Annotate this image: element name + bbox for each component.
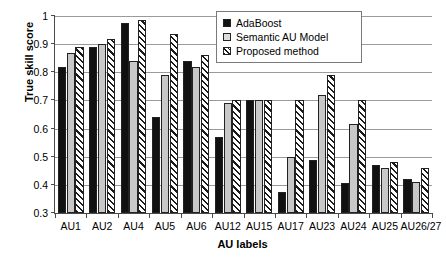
x-axis-tick-label: AU24 bbox=[338, 220, 369, 232]
y-axis-tick-label: 0.5 bbox=[0, 152, 55, 162]
bar bbox=[224, 103, 232, 213]
bar bbox=[152, 117, 160, 213]
bar-group: AU4 bbox=[118, 16, 149, 213]
bar bbox=[309, 160, 317, 213]
bar bbox=[75, 47, 83, 213]
bar bbox=[349, 124, 357, 213]
x-axis-tick-label: AU6 bbox=[181, 220, 212, 232]
bar bbox=[327, 75, 335, 213]
bar-group: AU2 bbox=[86, 16, 117, 213]
bar bbox=[246, 100, 254, 213]
y-axis-tick-label: 0.9 bbox=[0, 39, 55, 49]
bar bbox=[215, 137, 223, 213]
chart-legend: AdaBoostSemantic AU ModelProposed method bbox=[216, 11, 362, 63]
bar bbox=[372, 165, 380, 213]
bar bbox=[232, 100, 240, 213]
bar bbox=[138, 20, 146, 213]
x-axis-tick-mark bbox=[244, 213, 245, 218]
x-axis-tick-mark bbox=[275, 213, 276, 218]
legend-swatch-icon bbox=[223, 33, 231, 41]
x-axis-tick-label: AU15 bbox=[244, 220, 275, 232]
x-axis-tick-mark bbox=[306, 213, 307, 218]
bar bbox=[183, 61, 191, 213]
legend-item: AdaBoost bbox=[223, 16, 356, 30]
bar-group: AU1 bbox=[55, 16, 86, 213]
x-axis-tick-mark bbox=[338, 213, 339, 218]
bar bbox=[264, 100, 272, 213]
x-axis-tick-label: AU5 bbox=[149, 220, 180, 232]
x-axis-tick-mark bbox=[401, 213, 402, 218]
bar bbox=[67, 53, 75, 213]
legend-item: Semantic AU Model bbox=[223, 30, 356, 44]
bar bbox=[121, 23, 129, 213]
bar bbox=[107, 39, 115, 213]
y-axis-tick-label: 0.4 bbox=[0, 180, 55, 190]
x-axis-tick-label: AU12 bbox=[212, 220, 243, 232]
bar-group: AU26/27 bbox=[401, 16, 432, 213]
bar bbox=[89, 47, 97, 213]
bar bbox=[98, 44, 106, 213]
x-axis-tick-label: AU4 bbox=[118, 220, 149, 232]
bar bbox=[412, 182, 420, 213]
bar bbox=[295, 100, 303, 213]
legend-label: Proposed method bbox=[236, 46, 319, 57]
bar bbox=[358, 100, 366, 213]
y-axis-tick-label: 0.6 bbox=[0, 124, 55, 134]
bar bbox=[170, 34, 178, 213]
y-axis-tick-label: 1 bbox=[0, 11, 55, 21]
legend-label: AdaBoost bbox=[236, 18, 282, 29]
bar-group: AU6 bbox=[181, 16, 212, 213]
x-axis-tick-label: AU2 bbox=[86, 220, 117, 232]
bar bbox=[287, 157, 295, 213]
bar bbox=[341, 183, 349, 213]
x-axis-tick-mark bbox=[55, 213, 56, 218]
bar-group: AU5 bbox=[149, 16, 180, 213]
bar-group: AU25 bbox=[369, 16, 400, 213]
y-axis-tick-label: 0.3 bbox=[0, 208, 55, 218]
bar bbox=[390, 162, 398, 213]
y-axis-tick-label: 0.7 bbox=[0, 95, 55, 105]
legend-swatch-icon bbox=[223, 19, 231, 27]
bar bbox=[161, 75, 169, 213]
x-axis-tick-label: AU23 bbox=[306, 220, 337, 232]
bar bbox=[201, 55, 209, 213]
bar bbox=[318, 95, 326, 213]
x-axis-tick-mark bbox=[118, 213, 119, 218]
x-axis-tick-mark bbox=[86, 213, 87, 218]
bar bbox=[255, 100, 263, 213]
bar bbox=[192, 67, 200, 213]
x-axis-tick-label: AU26/27 bbox=[401, 220, 432, 232]
x-axis-tick-mark bbox=[149, 213, 150, 218]
bar bbox=[421, 168, 429, 213]
legend-swatch-icon bbox=[223, 47, 231, 55]
x-axis-tick-label: AU25 bbox=[369, 220, 400, 232]
x-axis-tick-mark bbox=[369, 213, 370, 218]
x-axis-tick-label: AU1 bbox=[55, 220, 86, 232]
legend-item: Proposed method bbox=[223, 44, 356, 58]
bar-chart: True skill score 0.30.40.50.60.70.80.91A… bbox=[0, 0, 446, 263]
x-axis-title: AU labels bbox=[54, 238, 431, 250]
bar bbox=[278, 192, 286, 213]
x-axis-tick-mark bbox=[181, 213, 182, 218]
y-axis-tick-label: 0.8 bbox=[0, 67, 55, 77]
legend-label: Semantic AU Model bbox=[236, 32, 328, 43]
x-axis-tick-mark bbox=[212, 213, 213, 218]
bar bbox=[58, 67, 66, 213]
bar bbox=[381, 168, 389, 213]
bar bbox=[403, 179, 411, 213]
bar bbox=[129, 61, 137, 213]
x-axis-tick-label: AU17 bbox=[275, 220, 306, 232]
x-axis-tick-mark bbox=[432, 213, 433, 218]
